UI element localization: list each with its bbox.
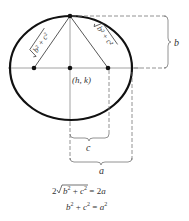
ellipse-diagram: b c a (h, k) b² + c² b² + c² 2 b2 + c2 =… <box>0 0 189 221</box>
a-label: a <box>99 165 104 176</box>
top-vertex-point <box>68 14 73 19</box>
svg-text:b2 + c2 = 2a: b2 + c2 = 2a <box>63 185 106 196</box>
left-focus-point <box>32 66 37 71</box>
svg-text:b2 + c2 = a2: b2 + c2 = a2 <box>66 201 107 212</box>
c-brace <box>70 134 109 141</box>
center-point <box>68 66 73 71</box>
b-label: b <box>174 37 179 48</box>
svg-text:2: 2 <box>52 186 57 196</box>
c-label: c <box>86 142 91 153</box>
center-label: (h, k) <box>72 75 91 85</box>
equation-1: 2 b2 + c2 = 2a <box>52 185 106 196</box>
b-bracket <box>72 16 166 68</box>
equation-2: b2 + c2 = a2 <box>66 201 107 212</box>
a-brace <box>70 158 132 165</box>
right-focus-point <box>106 66 111 71</box>
b-brace <box>164 16 171 68</box>
left-sqrt-label: b² + c² <box>28 28 53 58</box>
